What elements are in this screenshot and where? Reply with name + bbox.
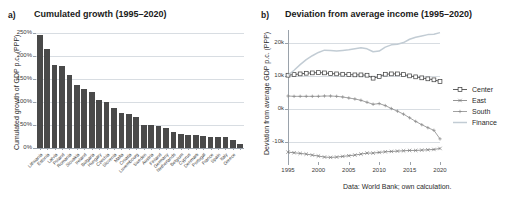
bar[interactable] <box>178 134 184 148</box>
panel-b-x-tick-label: 2005 <box>339 167 359 173</box>
legend-key-east-icon <box>452 96 468 105</box>
panel-b-series-center[interactable] <box>286 71 442 84</box>
panel-b-x-tick-mark <box>349 162 350 165</box>
legend-item-east[interactable]: East <box>452 95 497 106</box>
bar[interactable] <box>230 140 236 148</box>
bar[interactable] <box>133 117 139 148</box>
panel-a-plot-area: 0%50%100%150%200%250%LithuaniaEstoniaLat… <box>36 33 244 148</box>
panel-a-y-tick-mark <box>33 79 36 80</box>
panel-b-x-tick-label: 2020 <box>430 167 450 173</box>
panel-a-x-tick-mark <box>136 148 137 150</box>
bar[interactable] <box>81 89 87 148</box>
figure-caption: Data: World Bank; own calculation. <box>343 183 451 190</box>
bar[interactable] <box>37 35 43 148</box>
legend-key-south-icon <box>452 107 468 116</box>
panel-a-title: Cumulated growth (1995–2020) <box>34 9 167 19</box>
legend-item-center[interactable]: Center <box>452 84 497 95</box>
legend-item-south[interactable]: South <box>452 106 497 117</box>
bar[interactable] <box>156 126 162 148</box>
panel-a-y-tick-mark <box>33 33 36 34</box>
panel-a-x-tick-mark <box>107 148 108 150</box>
bar[interactable] <box>44 49 50 148</box>
panel-b-y-axis-label: Deviation from average GDP p.c. (PPP) <box>263 32 270 155</box>
panel-a-x-tick-mark <box>84 148 85 150</box>
bar[interactable] <box>52 65 58 148</box>
bar[interactable] <box>148 125 154 148</box>
panel-a-x-tick-mark <box>181 148 182 150</box>
panel-b-series-finance[interactable] <box>288 33 440 76</box>
panel-b-series-east[interactable] <box>286 147 441 159</box>
bar[interactable] <box>67 75 73 148</box>
panel-a-y-tick-mark <box>33 56 36 57</box>
panel-a-x-tick-mark <box>47 148 48 150</box>
panel-b-legend: CenterEastSouthFinance <box>452 84 497 128</box>
bar[interactable] <box>141 125 147 148</box>
bar[interactable] <box>74 85 80 148</box>
panel-a-x-tick-mark <box>173 148 174 150</box>
bar[interactable] <box>223 137 229 148</box>
bar[interactable] <box>185 135 191 148</box>
panel-a-x-tick-mark <box>144 148 145 150</box>
panel-b-x-tick-label: 2010 <box>369 167 389 173</box>
legend-label-finance: Finance <box>472 119 497 126</box>
bar[interactable] <box>193 135 199 148</box>
bar[interactable] <box>59 66 65 148</box>
bar[interactable] <box>200 136 206 148</box>
panel-a-y-tick-mark <box>33 102 36 103</box>
panel-a-x-tick-mark <box>240 148 241 150</box>
legend-label-center: Center <box>472 86 493 93</box>
legend-item-finance[interactable]: Finance <box>452 117 497 128</box>
panel-a-x-tick-mark <box>129 148 130 150</box>
bar[interactable] <box>89 92 95 148</box>
panel-a-x-tick-mark <box>211 148 212 150</box>
panel-a-y-tick-label: 50% <box>6 121 32 127</box>
panel-b-y-tick-label: -10k <box>264 138 284 144</box>
panel-a-x-tick-mark <box>196 148 197 150</box>
panel-b-plot-area: -10k0k10k20k199520002005201020152020 <box>288 30 440 162</box>
bar[interactable] <box>163 128 169 148</box>
legend-key-center-icon <box>452 85 468 94</box>
panel-a-gridline <box>36 33 244 34</box>
panel-a-gridline <box>36 148 244 149</box>
panel-a-gridline <box>36 56 244 57</box>
panel-b-x-tick-mark <box>440 162 441 165</box>
panel-a-x-tick-mark <box>55 148 56 150</box>
panel-a-y-tick-label: 150% <box>6 75 32 81</box>
panel-a-x-tick-mark <box>69 148 70 150</box>
panel-a-y-tick-label: 200% <box>6 52 32 58</box>
bar[interactable] <box>119 113 125 148</box>
bar[interactable] <box>126 114 132 148</box>
panel-a-x-tick-mark <box>77 148 78 150</box>
bar[interactable] <box>208 137 214 149</box>
panel-a-x-tick-mark <box>114 148 115 150</box>
panel-a-x-tick-mark <box>225 148 226 150</box>
panel-a-x-tick-mark <box>151 148 152 150</box>
panel-a-x-tick-mark <box>233 148 234 150</box>
panel-a-x-tick-mark <box>203 148 204 150</box>
panel-b-x-tick-mark <box>379 162 380 165</box>
panel-a-x-tick-mark <box>121 148 122 150</box>
bar[interactable] <box>215 137 221 148</box>
figure-root: a) Cumulated growth (1995–2020) Cumulate… <box>0 0 509 202</box>
panel-a-x-tick-mark <box>188 148 189 150</box>
panel-a-y-tick-label: 0% <box>6 144 32 150</box>
panel-b-y-tick-label: 0k <box>264 105 284 111</box>
panel-b-series-south[interactable] <box>286 94 441 140</box>
panel-b-x-tick-label: 2000 <box>308 167 328 173</box>
panel-b-title: Deviation from average income (1995–2020… <box>285 9 472 19</box>
panel-b-y-tick-label: 10k <box>264 72 284 78</box>
bar[interactable] <box>104 102 110 148</box>
panel-a-x-tick-mark <box>62 148 63 150</box>
bar[interactable] <box>96 100 102 148</box>
panel-a-x-tick-mark <box>92 148 93 150</box>
legend-key-finance-icon <box>452 118 468 127</box>
panel-a-y-tick-label: 100% <box>6 98 32 104</box>
panel-a-tag: a) <box>8 10 16 20</box>
panel-a-x-tick-mark <box>40 148 41 150</box>
panel-b-x-tick-mark <box>410 162 411 165</box>
panel-b-x-tick-mark <box>318 162 319 165</box>
bar[interactable] <box>171 132 177 148</box>
panel-a-cumulated-growth: a) Cumulated growth (1995–2020) Cumulate… <box>0 0 255 202</box>
panel-b-deviation-income: b) Deviation from average income (1995–2… <box>255 0 509 202</box>
bar[interactable] <box>111 108 117 148</box>
